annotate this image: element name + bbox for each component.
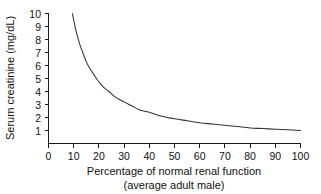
x-tick-label: 40 <box>143 150 155 162</box>
x-tick-label: 100 <box>292 150 310 162</box>
x-tick-label: 50 <box>169 150 181 162</box>
chart-figure: 10 9 8 7 6 5 4 3 2 1 0 10 20 30 40 50 60… <box>0 0 321 194</box>
x-tick-label: 70 <box>219 150 231 162</box>
y-tick-label: 5 <box>35 73 41 85</box>
y-tick-label: 1 <box>35 125 41 137</box>
y-tick-label: 2 <box>35 112 41 124</box>
y-tick-label: 9 <box>35 21 41 33</box>
y-tick-label: 8 <box>35 34 41 46</box>
y-tick-label: 7 <box>35 47 41 59</box>
x-tick-label: 20 <box>93 150 105 162</box>
x-tick-label: 90 <box>269 150 281 162</box>
y-tick-label: 3 <box>35 99 41 111</box>
y-tick-label: 6 <box>35 60 41 72</box>
x-tick-label: 30 <box>118 150 130 162</box>
y-tick-label: 10 <box>29 8 41 20</box>
renal-function-creatinine-chart: 10 9 8 7 6 5 4 3 2 1 0 10 20 30 40 50 60… <box>0 0 321 194</box>
y-tick-label: 4 <box>35 86 41 98</box>
x-axis-title-secondary: (average adult male) <box>124 179 225 191</box>
x-tick-label: 10 <box>68 150 80 162</box>
x-tick-label: 0 <box>46 150 52 162</box>
x-tick-label: 80 <box>244 150 256 162</box>
y-axis-title: Serum creatinine (mg/dL) <box>4 16 16 140</box>
x-tick-label: 60 <box>194 150 206 162</box>
x-axis-title: Percentage of normal renal function <box>87 165 261 177</box>
